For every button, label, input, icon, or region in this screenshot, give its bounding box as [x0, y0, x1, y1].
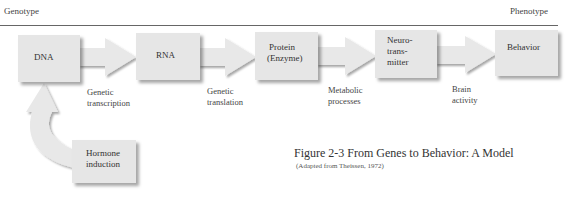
- edge-label-line: activity: [452, 95, 478, 106]
- edge-label-line: processes: [328, 96, 362, 107]
- edge-label-transcription: Genetic transcription: [87, 87, 130, 109]
- node-protein-label-2: (Enzyme): [267, 53, 302, 64]
- arrow-protein-neuro: [316, 37, 376, 75]
- node-protein: Protein (Enzyme): [255, 32, 318, 80]
- edge-label-line: Genetic: [207, 86, 243, 97]
- node-protein-label-1: Protein: [269, 42, 295, 53]
- node-hormone: Hormone induction: [72, 140, 136, 183]
- node-dna-label: DNA: [34, 52, 54, 63]
- node-behavior: Behavior: [495, 30, 558, 76]
- node-rna-label: RNA: [156, 50, 175, 61]
- node-neuro-label-1: Neuro-: [387, 35, 413, 46]
- node-neuro-label-2: trans-: [387, 46, 408, 57]
- arrow-dna-rna: [78, 38, 136, 76]
- arrow-rna-protein: [198, 38, 256, 76]
- node-neuro-label-3: mitter: [387, 57, 409, 68]
- edge-label-line: Brain: [452, 84, 478, 95]
- node-neurotransmitter: Neuro- trans- mitter: [375, 30, 437, 78]
- arrow-neuro-behavior: [435, 36, 496, 73]
- figure-source: (Adapted from Theissen, 1972): [296, 162, 384, 170]
- edge-label-brain: Brain activity: [452, 84, 478, 106]
- edge-label-line: transcription: [87, 98, 130, 109]
- edge-label-line: translation: [207, 97, 243, 108]
- edge-label-line: Metabolic: [328, 85, 362, 96]
- edge-label-metabolic: Metabolic processes: [328, 85, 362, 107]
- edge-label-translation: Genetic translation: [207, 86, 243, 108]
- arrow-hormone-dna: [26, 83, 74, 168]
- node-hormone-label-1: Hormone: [86, 148, 120, 159]
- node-dna: DNA: [18, 35, 80, 82]
- edge-label-line: Genetic: [87, 87, 130, 98]
- figure-caption: Figure 2-3 From Genes to Behavior: A Mod…: [294, 146, 514, 161]
- node-rna: RNA: [136, 33, 200, 80]
- node-hormone-label-2: induction: [86, 159, 120, 170]
- node-behavior-label: Behavior: [507, 42, 540, 53]
